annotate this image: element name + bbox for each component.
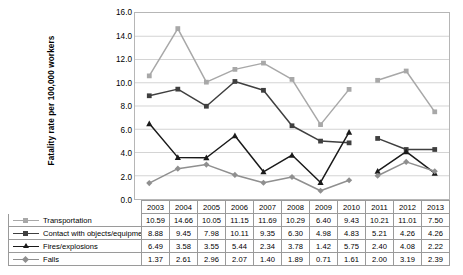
y-tick-label: 12.0: [116, 55, 132, 64]
data-point-marker: [432, 109, 437, 114]
table-cell: 1.89: [282, 253, 310, 266]
table-header-row: 2003200420052006200720082009201020112012…: [9, 201, 450, 214]
table-year-header: 2010: [338, 201, 366, 214]
legend-entry[interactable]: Falls: [9, 253, 142, 266]
data-point-marker: [403, 159, 409, 165]
table-cell: 1.40: [254, 253, 282, 266]
data-point-marker: [204, 104, 209, 109]
legend-data-table: 2003200420052006200720082009201020112012…: [8, 200, 450, 268]
table-cell: 3.55: [198, 240, 226, 253]
data-point-marker: [375, 78, 380, 83]
table-year-header: 2012: [394, 201, 422, 214]
table-cell: 7.98: [198, 227, 226, 240]
data-point-marker: [261, 88, 266, 93]
legend-label: Falls: [43, 255, 59, 264]
data-point-marker: [346, 177, 352, 183]
series-contact-with-objects-equipment: [147, 79, 437, 152]
y-axis-title: Fatality rate per 100,000 workers: [47, 6, 56, 196]
legend-label: Transportation: [43, 216, 92, 225]
series-falls: [146, 159, 438, 194]
data-point-marker: [204, 80, 209, 85]
table-cell: 4.83: [338, 227, 366, 240]
data-point-marker: [233, 79, 238, 84]
table-cell: 4.08: [394, 240, 422, 253]
chart-figure: Fatality rate per 100,000 workers 16.014…: [0, 0, 463, 275]
table-cell: 6.49: [142, 240, 170, 253]
legend-marker-square-icon: [13, 216, 39, 225]
data-point-marker: [175, 166, 181, 172]
table-cell: 2.00: [366, 253, 394, 266]
table-corner-cell: [9, 201, 142, 214]
table-cell: 2.07: [226, 253, 254, 266]
table-cell: 3.58: [170, 240, 198, 253]
table-cell: 1.42: [310, 240, 338, 253]
table-cell: 9.45: [170, 227, 198, 240]
table-cell: 8.88: [142, 227, 170, 240]
table-year-header: 2008: [282, 201, 310, 214]
table-cell: 2.61: [170, 253, 198, 266]
y-tick-label: 16.0: [116, 8, 132, 17]
table-cell: 3.78: [282, 240, 310, 253]
table-cell: 10.11: [226, 227, 254, 240]
data-point-marker: [404, 69, 409, 74]
table-cell: 5.75: [338, 240, 366, 253]
data-point-marker: [261, 61, 266, 66]
table-cell: 10.59: [142, 214, 170, 227]
table-year-header: 2011: [366, 201, 394, 214]
legend-marker-square-icon: [13, 229, 39, 238]
table-cell: 2.39: [422, 253, 450, 266]
table-cell: 3.19: [394, 253, 422, 266]
table-cell: 5.21: [366, 227, 394, 240]
table-row: Transportation10.5914.6610.0511.1511.691…: [9, 214, 450, 227]
data-point-marker: [290, 77, 295, 82]
data-point-marker: [347, 87, 352, 92]
legend-entry[interactable]: Contact with objects/equipment: [9, 227, 142, 240]
table-cell: 14.66: [170, 214, 198, 227]
data-point-marker: [175, 87, 180, 92]
data-point-marker: [147, 93, 152, 98]
table-year-header: 2004: [170, 201, 198, 214]
data-point-marker: [432, 147, 437, 152]
data-point-marker: [375, 136, 380, 141]
data-point-marker: [432, 168, 438, 174]
data-table: 2003200420052006200720082009201020112012…: [8, 200, 450, 266]
y-axis-tick-labels: 16.014.012.010.08.06.04.02.00.0: [96, 0, 132, 205]
plot-area: [134, 12, 450, 200]
table-year-header: 2006: [226, 201, 254, 214]
data-point-marker: [289, 174, 295, 180]
table-cell: 6.30: [282, 227, 310, 240]
series-transportation: [147, 26, 437, 127]
data-point-marker: [232, 172, 238, 178]
legend-label: Fires/explosions: [43, 242, 98, 251]
table-row: Falls1.372.612.962.071.401.890.711.612.0…: [9, 253, 450, 266]
data-point-marker: [175, 26, 180, 31]
table-cell: 6.40: [310, 214, 338, 227]
table-cell: 11.15: [226, 214, 254, 227]
table-cell: 2.96: [198, 253, 226, 266]
data-point-marker: [346, 129, 352, 135]
legend-label: Contact with objects/equipment: [43, 229, 142, 238]
table-cell: 5.44: [226, 240, 254, 253]
data-point-marker: [233, 67, 238, 72]
table-cell: 4.26: [394, 227, 422, 240]
table-cell: 2.34: [254, 240, 282, 253]
data-point-marker: [232, 133, 238, 139]
table-cell: 7.50: [422, 214, 450, 227]
legend-entry[interactable]: Transportation: [9, 214, 142, 227]
table-cell: 2.40: [366, 240, 394, 253]
table-year-header: 2003: [142, 201, 170, 214]
table-cell: 11.01: [394, 214, 422, 227]
y-tick-label: 8.0: [121, 102, 132, 111]
y-tick-label: 14.0: [116, 31, 132, 40]
y-tick-label: 6.0: [121, 125, 132, 134]
data-point-marker: [260, 180, 266, 186]
table-year-header: 2005: [198, 201, 226, 214]
legend-entry[interactable]: Fires/explosions: [9, 240, 142, 253]
data-point-marker: [318, 139, 323, 144]
table-cell: 9.43: [338, 214, 366, 227]
legend-marker-diamond-icon: [13, 255, 39, 264]
y-tick-label: 10.0: [116, 78, 132, 87]
data-point-marker: [317, 188, 323, 194]
plot-svg: [135, 13, 449, 199]
data-point-marker: [147, 74, 152, 79]
